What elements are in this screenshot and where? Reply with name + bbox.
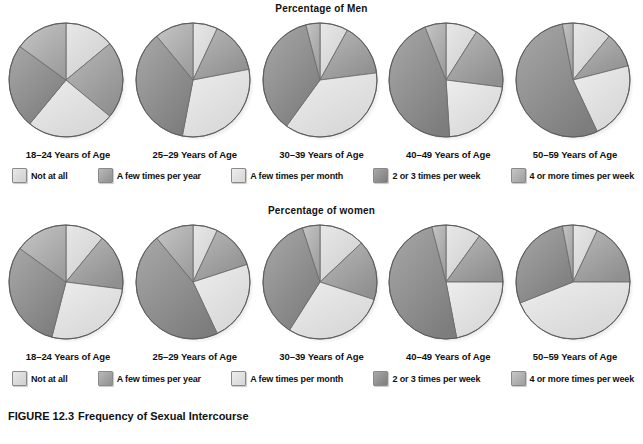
pie-group: 50–59 Years of Age (515, 20, 635, 160)
legend-label: A few times per month (250, 171, 343, 181)
legend-label: 4 or more times per week (530, 374, 634, 384)
legend-item: 2 or 3 times per week (373, 371, 480, 386)
age-group-label: 25–29 Years of Age (153, 149, 237, 160)
age-group-label: 18–24 Years of Age (26, 351, 110, 362)
pie-chart (386, 20, 510, 146)
row-title-women: Percentage of women (0, 205, 643, 216)
legend-men: Not at allA few times per yearA few time… (0, 168, 643, 183)
pie-group: 25–29 Years of Age (135, 222, 255, 362)
legend-label: 4 or more times per week (530, 171, 634, 181)
legend-item: 4 or more times per week (511, 168, 634, 183)
pie-chart (386, 222, 510, 348)
pie-group: 30–39 Years of Age (262, 222, 382, 362)
age-group-label: 40–49 Years of Age (406, 351, 490, 362)
pie-row-men: 18–24 Years of Age (0, 20, 643, 160)
pie-chart (6, 20, 130, 146)
legend-label: Not at all (31, 374, 68, 384)
age-group-label: 30–39 Years of Age (279, 351, 363, 362)
legend-label: 2 or 3 times per week (392, 374, 480, 384)
figure-container: Percentage of Men (0, 0, 643, 444)
legend-item: A few times per month (231, 371, 343, 386)
figure-source-cutoff (8, 433, 438, 442)
legend-swatch-icon (98, 168, 113, 183)
pie-chart (260, 222, 384, 348)
legend-item: A few times per month (231, 168, 343, 183)
row-title-men: Percentage of Men (0, 3, 643, 14)
legend-swatch-icon (98, 371, 113, 386)
figure-number: FIGURE 12.3 (8, 410, 74, 422)
legend-swatch-icon (511, 371, 526, 386)
legend-swatch-icon (12, 371, 27, 386)
legend-item: A few times per year (98, 168, 201, 183)
legend-swatch-icon (373, 371, 388, 386)
age-group-label: 18–24 Years of Age (26, 149, 110, 160)
pie-chart (260, 20, 384, 146)
pie-chart (513, 222, 637, 348)
legend-swatch-icon (231, 371, 246, 386)
age-group-label: 25–29 Years of Age (153, 351, 237, 362)
legend-item: 4 or more times per week (511, 371, 634, 386)
figure-title: Frequency of Sexual Intercourse (78, 410, 249, 422)
pie-group: 25–29 Years of Age (135, 20, 255, 160)
legend-label: A few times per month (250, 374, 343, 384)
legend-swatch-icon (12, 168, 27, 183)
pie-chart (133, 222, 257, 348)
legend-swatch-icon (231, 168, 246, 183)
legend-label: A few times per year (117, 171, 201, 181)
legend-label: Not at all (31, 171, 68, 181)
pie-chart (133, 20, 257, 146)
age-group-label: 50–59 Years of Age (533, 149, 617, 160)
legend-item: Not at all (12, 371, 68, 386)
pie-group: 40–49 Years of Age (388, 222, 508, 362)
pie-chart (513, 20, 637, 146)
pie-group: 18–24 Years of Age (8, 222, 128, 362)
pie-group: 18–24 Years of Age (8, 20, 128, 160)
legend-item: 2 or 3 times per week (373, 168, 480, 183)
pie-slice (446, 80, 503, 137)
legend-label: A few times per year (117, 374, 201, 384)
pie-chart (6, 222, 130, 348)
age-group-label: 30–39 Years of Age (279, 149, 363, 160)
legend-item: Not at all (12, 168, 68, 183)
legend-women: Not at allA few times per yearA few time… (0, 371, 643, 386)
pie-row-women: 18–24 Years of Age (0, 222, 643, 362)
age-group-label: 50–59 Years of Age (533, 351, 617, 362)
legend-item: A few times per year (98, 371, 201, 386)
figure-caption: FIGURE 12.3Frequency of Sexual Intercour… (8, 410, 249, 422)
legend-swatch-icon (511, 168, 526, 183)
legend-label: 2 or 3 times per week (392, 171, 480, 181)
legend-swatch-icon (373, 168, 388, 183)
pie-group: 40–49 Years of Age (388, 20, 508, 160)
pie-group: 30–39 Years of Age (262, 20, 382, 160)
pie-group: 50–59 Years of Age (515, 222, 635, 362)
age-group-label: 40–49 Years of Age (406, 149, 490, 160)
